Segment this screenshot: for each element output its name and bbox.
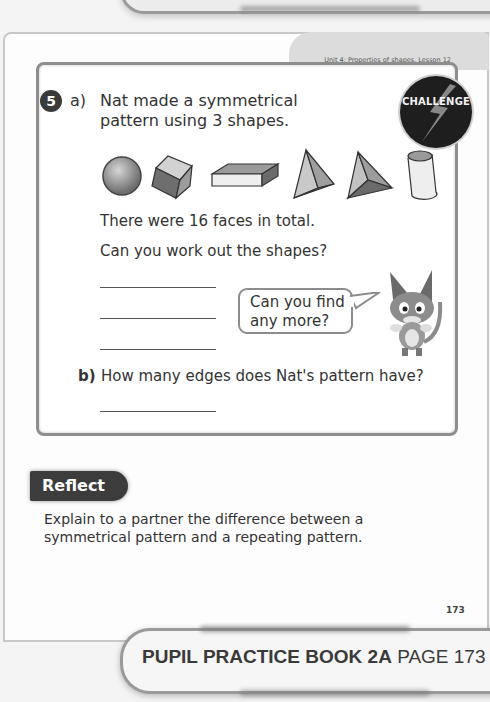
cuboid-icon xyxy=(210,160,282,194)
reflect-heading: Reflect xyxy=(30,471,128,501)
part-b-label: b) xyxy=(78,367,96,385)
book-title: PUPIL PRACTICE BOOK 2A xyxy=(142,646,392,667)
answer-line-a2[interactable] xyxy=(100,318,216,319)
reflect-text: Explain to a partner the difference betw… xyxy=(44,510,424,546)
challenge-badge: CHALLENGE xyxy=(400,76,472,148)
worksheet-canvas: Unit 4: Properties of shapes, Lesson 12 … xyxy=(0,0,490,702)
page-number: 173 xyxy=(446,605,465,615)
work-out-prompt: Can you work out the shapes? xyxy=(100,242,327,260)
speech-bubble: Can you find any more? xyxy=(238,288,353,334)
shape-pattern xyxy=(96,148,446,204)
banner-shadow xyxy=(240,690,430,696)
book-page-ref: PAGE 173 xyxy=(397,646,485,667)
answer-line-a1[interactable] xyxy=(100,287,216,288)
question-number: 5 xyxy=(40,90,62,112)
part-a-label: a) xyxy=(70,91,86,110)
sphere-icon xyxy=(100,154,144,198)
tab-shadow xyxy=(240,6,420,12)
cube-icon xyxy=(150,152,200,200)
part-a-text: Nat made a symmetrical pattern using 3 s… xyxy=(100,91,360,131)
banner-shadow xyxy=(200,626,410,632)
triangular-pyramid-icon xyxy=(292,148,338,204)
lightning-bolt-icon xyxy=(400,76,472,148)
cylinder-icon xyxy=(402,148,442,204)
answer-line-b[interactable] xyxy=(100,411,216,412)
part-b-text: How many edges does Nat's pattern have? xyxy=(101,367,424,385)
faces-fact: There were 16 faces in total. xyxy=(100,212,315,230)
triangular-pyramid-icon xyxy=(346,150,396,204)
cat-character-icon xyxy=(380,268,450,360)
challenge-label: CHALLENGE xyxy=(400,96,472,107)
banner-title: PUPIL PRACTICE BOOK 2A PAGE 173 xyxy=(142,646,486,668)
answer-line-a3[interactable] xyxy=(100,349,216,350)
